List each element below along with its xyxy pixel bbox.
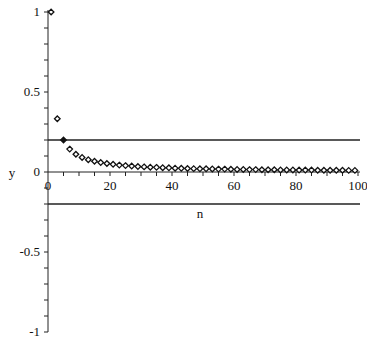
- data-point: [185, 166, 191, 172]
- data-point: [48, 9, 54, 15]
- data-point: [160, 165, 166, 171]
- data-point: [55, 116, 61, 122]
- x-tick-label: 20: [104, 178, 117, 193]
- y-tick-label: 0.5: [24, 84, 40, 99]
- y-tick-label: -0.5: [19, 244, 40, 259]
- data-point: [191, 166, 197, 172]
- data-point: [67, 146, 73, 152]
- data-point: [79, 155, 85, 161]
- data-points: [48, 9, 357, 173]
- data-point: [179, 166, 185, 172]
- y-axis-label: y: [9, 165, 16, 180]
- data-point: [203, 166, 209, 172]
- chart: -1-0.500.51020406080100 n y: [0, 0, 367, 344]
- x-tick-label: 40: [166, 178, 179, 193]
- x-tick-label: 80: [290, 178, 303, 193]
- data-point: [154, 165, 160, 171]
- x-tick-label: 60: [228, 178, 241, 193]
- data-point: [117, 162, 123, 168]
- data-point: [73, 151, 79, 157]
- data-point: [129, 163, 135, 169]
- y-tick-label: -1: [29, 324, 40, 339]
- data-point: [148, 164, 154, 170]
- data-point: [104, 161, 110, 167]
- data-point: [197, 166, 203, 172]
- data-point: [86, 157, 92, 163]
- data-point: [241, 167, 247, 173]
- highlighted-data-point: [61, 137, 67, 143]
- data-point: [172, 165, 178, 171]
- x-tick-label: 0: [45, 178, 52, 193]
- data-point: [216, 166, 222, 172]
- data-point: [234, 167, 240, 173]
- data-point: [123, 163, 129, 169]
- data-point: [135, 164, 141, 170]
- x-axis-label: n: [197, 206, 204, 221]
- data-point: [210, 166, 216, 172]
- data-point: [92, 158, 98, 164]
- data-point: [98, 160, 104, 166]
- data-point: [110, 162, 116, 168]
- y-tick-label: 0: [34, 164, 41, 179]
- x-tick-label: 100: [348, 178, 367, 193]
- y-tick-label: 1: [34, 4, 41, 19]
- data-point: [222, 166, 228, 172]
- data-point: [141, 164, 147, 170]
- data-point: [166, 165, 172, 171]
- data-point: [228, 166, 234, 172]
